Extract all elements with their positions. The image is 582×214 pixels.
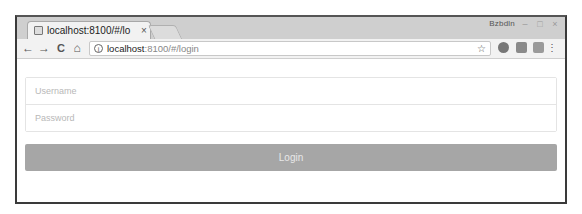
profile-label[interactable]: Bzbdln (489, 19, 515, 28)
url-path: :8100/#/login (145, 43, 199, 54)
password-input[interactable] (33, 112, 556, 124)
url-host: localhost (107, 43, 145, 54)
browser-tab[interactable]: localhost:8100/#/lo × (27, 21, 151, 39)
reload-icon[interactable]: C (54, 41, 68, 55)
bookmark-star-icon[interactable]: ☆ (477, 42, 486, 55)
page-content: Login (17, 59, 565, 202)
extension-pocket-icon[interactable] (516, 42, 527, 53)
minimize-icon[interactable]: – (519, 19, 531, 29)
maximize-icon[interactable]: □ (534, 19, 546, 29)
menu-icon[interactable]: ⋮ (547, 42, 557, 54)
info-icon[interactable]: i (94, 44, 103, 53)
new-tab-button[interactable] (148, 25, 183, 39)
extension-opera-icon[interactable] (498, 42, 509, 53)
browser-toolbar: ← → C ⌂ i localhost:8100/#/login ☆ ⋮ (17, 39, 565, 59)
home-icon[interactable]: ⌂ (70, 41, 84, 55)
favicon-icon (34, 26, 43, 35)
tab-title: localhost:8100/#/lo (47, 25, 138, 36)
back-icon[interactable]: ← (21, 41, 35, 55)
password-item (26, 104, 556, 131)
login-form-list (25, 77, 557, 132)
window-close-icon[interactable]: × (549, 19, 561, 29)
forward-icon[interactable]: → (37, 41, 51, 55)
username-input[interactable] (33, 85, 556, 97)
extension-mail-icon[interactable] (533, 42, 544, 53)
address-bar[interactable]: i localhost:8100/#/login ☆ (89, 41, 491, 56)
browser-window: localhost:8100/#/lo × Bzbdln – □ × ← → C… (15, 15, 567, 204)
username-item (26, 78, 556, 104)
tab-bar: localhost:8100/#/lo × Bzbdln – □ × (17, 17, 565, 39)
login-button[interactable]: Login (25, 144, 557, 171)
